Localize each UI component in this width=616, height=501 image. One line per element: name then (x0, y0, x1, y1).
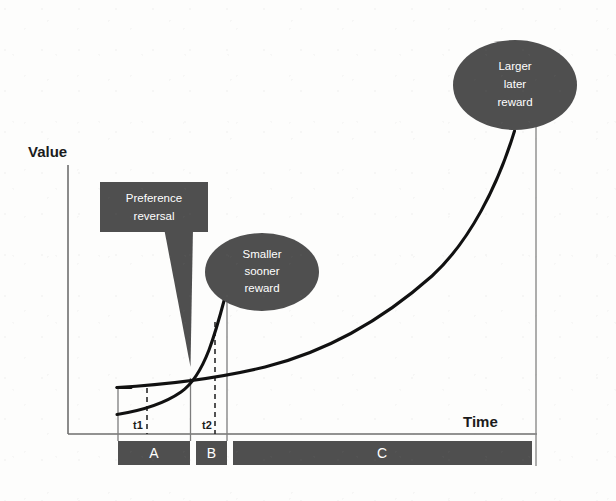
x-axis-title: Time (463, 413, 498, 430)
interval-bar-a-label: A (149, 445, 159, 461)
callout-preference-reversal: Preference reversal (100, 182, 208, 367)
preference-reversal-box (100, 182, 208, 232)
preference-reversal-pointer (164, 228, 193, 367)
tick-label-t2: t2 (202, 419, 212, 431)
interval-bar-b-label: B (207, 445, 216, 461)
y-axis-title: Value (28, 143, 67, 160)
smaller-sooner-curve (117, 299, 225, 415)
tick-label-t1: t1 (133, 419, 143, 431)
preference-reversal-line-1: Preference (126, 192, 182, 204)
interval-bars-group: A B C (118, 441, 532, 465)
interval-bar-c-label: C (377, 445, 387, 461)
larger-later-reward-line-2: later (504, 78, 527, 90)
smaller-sooner-reward-line-3: reward (244, 282, 279, 294)
smaller-sooner-reward-line-2: sooner (244, 265, 279, 277)
callout-larger-later-reward: Larger later reward (453, 40, 577, 130)
larger-later-reward-line-1: Larger (498, 60, 531, 72)
callout-smaller-sooner-reward: Smaller sooner reward (205, 233, 319, 311)
smaller-sooner-reward-line-1: Smaller (243, 248, 282, 260)
diagram-root: t1 t2 A B C Preference reversal (0, 0, 616, 501)
larger-later-reward-line-3: reward (497, 96, 532, 108)
hyperbolic-discounting-diagram: t1 t2 A B C Preference reversal (0, 0, 616, 501)
preference-reversal-line-2: reversal (134, 210, 175, 222)
